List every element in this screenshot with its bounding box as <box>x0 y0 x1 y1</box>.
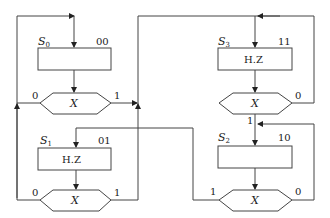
s0-state-box <box>38 48 111 70</box>
s1-code: 01 <box>98 135 111 146</box>
s3-branch-1: 1 <box>247 115 253 126</box>
s2-branch-1: 1 <box>210 186 216 197</box>
s1-output: H.Z <box>62 154 81 165</box>
s0-code: 00 <box>96 36 109 47</box>
s2-label: S2 <box>218 131 230 145</box>
state-s3: H.Z S3 11 X 0 1 <box>218 16 314 126</box>
asm-chart: S0 00 X 0 1 H.Z S1 01 X 0 1 H.Z S3 <box>0 0 330 218</box>
s3-branch-0: 0 <box>295 90 301 101</box>
s0-branch-0: 0 <box>32 90 38 101</box>
s1-branch-1: 1 <box>114 187 120 198</box>
s1-label: S1 <box>40 134 52 148</box>
s3-output: H.Z <box>244 54 263 65</box>
s3-code: 11 <box>278 36 291 47</box>
state-s2: S2 10 X 1 0 <box>193 114 314 211</box>
s2-branch-0: 0 <box>295 186 301 197</box>
state-s0: S0 00 X 0 1 <box>17 16 137 114</box>
s1-decision-label: X <box>70 194 80 207</box>
s0-branch-1: 1 <box>114 90 120 101</box>
s0-decision-label: X <box>69 97 79 110</box>
s2-decision-label: X <box>250 194 260 207</box>
s0-label: S0 <box>38 35 50 49</box>
s2-state-box <box>218 146 292 168</box>
s3-label: S3 <box>218 35 230 49</box>
s1-branch-0: 0 <box>32 187 38 198</box>
s2-code: 10 <box>278 132 291 143</box>
s3-decision-label: X <box>250 97 260 110</box>
state-s1: H.Z S1 01 X 0 1 <box>17 128 193 211</box>
